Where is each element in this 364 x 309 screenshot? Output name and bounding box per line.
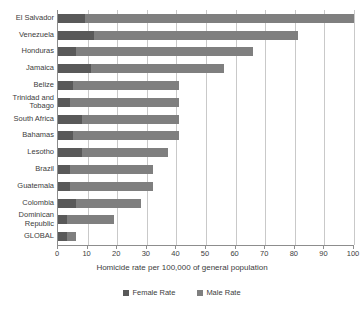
y-axis-label: Bahamas [0, 131, 54, 140]
bar-segment-female[interactable] [58, 148, 82, 157]
x-axis-ticks: 0102030405060708090100 [57, 245, 353, 261]
bar-row[interactable] [58, 131, 354, 140]
x-axis-title: Homicide rate per 100,000 of general pop… [0, 263, 364, 272]
y-axis-category-labels: El SalvadorVenezuelaHondurasJamaicaBeliz… [0, 10, 54, 245]
bar-row[interactable] [58, 148, 354, 157]
homicide-rate-bar-chart: El SalvadorVenezuelaHondurasJamaicaBeliz… [0, 0, 364, 309]
bar-segment-female[interactable] [58, 47, 76, 56]
bar-segment-female[interactable] [58, 81, 73, 90]
bar-row[interactable] [58, 14, 354, 23]
bar-segment-male[interactable] [67, 215, 114, 224]
y-axis-label: Honduras [0, 47, 54, 56]
bar-segment-female[interactable] [58, 115, 82, 124]
y-axis-label: Jamaica [0, 64, 54, 73]
y-axis-label: Brazil [0, 165, 54, 174]
legend-label: Female Rate [132, 288, 175, 297]
bar-segment-female[interactable] [58, 31, 94, 40]
bar-row[interactable] [58, 64, 354, 73]
bar-segment-male[interactable] [67, 232, 76, 241]
bar-segment-female[interactable] [58, 131, 73, 140]
x-tick-label: 70 [251, 249, 277, 259]
bar-segment-female[interactable] [58, 215, 67, 224]
x-tick-label: 50 [192, 249, 218, 259]
x-tick-label: 20 [103, 249, 129, 259]
y-axis-label: South Africa [0, 115, 54, 124]
bar-row[interactable] [58, 98, 354, 107]
y-axis-label: Trinidad and Tobago [0, 94, 54, 111]
y-axis-label: Guatemala [0, 182, 54, 191]
x-tick-label: 100 [340, 249, 364, 259]
x-tick-label: 90 [310, 249, 336, 259]
y-axis-label: Venezuela [0, 31, 54, 40]
bar-segment-male[interactable] [76, 199, 141, 208]
y-axis-label: Dominican Republic [0, 211, 54, 228]
y-axis-label: Belize [0, 81, 54, 90]
bar-segment-female[interactable] [58, 98, 70, 107]
bar-segment-male[interactable] [73, 81, 180, 90]
bar-segment-male[interactable] [70, 182, 153, 191]
legend-item[interactable]: Male Rate [197, 288, 240, 297]
bar-segment-female[interactable] [58, 64, 91, 73]
x-tick-label: 30 [133, 249, 159, 259]
y-axis-label: Colombia [0, 199, 54, 208]
bar-segment-male[interactable] [76, 47, 254, 56]
bar-row[interactable] [58, 31, 354, 40]
bar-segment-male[interactable] [82, 115, 180, 124]
bar-rows [58, 10, 354, 245]
bar-segment-male[interactable] [82, 148, 168, 157]
bar-segment-male[interactable] [91, 64, 224, 73]
chart-legend: Female RateMale Rate [0, 288, 364, 297]
x-tick-label: 80 [281, 249, 307, 259]
legend-label: Male Rate [206, 288, 240, 297]
bar-row[interactable] [58, 199, 354, 208]
bar-row[interactable] [58, 115, 354, 124]
bar-row[interactable] [58, 215, 354, 224]
x-tick-label: 60 [222, 249, 248, 259]
y-axis-label: GLOBAL [0, 232, 54, 241]
bar-segment-male[interactable] [70, 98, 180, 107]
plot-area [57, 10, 354, 246]
y-axis-label: Lesotho [0, 148, 54, 157]
legend-swatch-icon [123, 290, 129, 296]
y-axis-label: El Salvador [0, 14, 54, 23]
bar-segment-female[interactable] [58, 165, 70, 174]
bar-segment-female[interactable] [58, 199, 76, 208]
bar-segment-male[interactable] [70, 165, 153, 174]
bar-row[interactable] [58, 182, 354, 191]
bar-segment-male[interactable] [73, 131, 180, 140]
bar-row[interactable] [58, 232, 354, 241]
bar-segment-female[interactable] [58, 14, 85, 23]
gridline [354, 10, 355, 245]
x-tick-label: 0 [44, 249, 70, 259]
bar-segment-female[interactable] [58, 232, 67, 241]
legend-item[interactable]: Female Rate [123, 288, 175, 297]
bar-row[interactable] [58, 81, 354, 90]
bar-row[interactable] [58, 47, 354, 56]
x-tick-label: 40 [162, 249, 188, 259]
legend-swatch-icon [197, 290, 203, 296]
x-tick-label: 10 [74, 249, 100, 259]
bar-segment-male[interactable] [85, 14, 354, 23]
bar-row[interactable] [58, 165, 354, 174]
bar-segment-female[interactable] [58, 182, 70, 191]
bar-segment-male[interactable] [94, 31, 298, 40]
